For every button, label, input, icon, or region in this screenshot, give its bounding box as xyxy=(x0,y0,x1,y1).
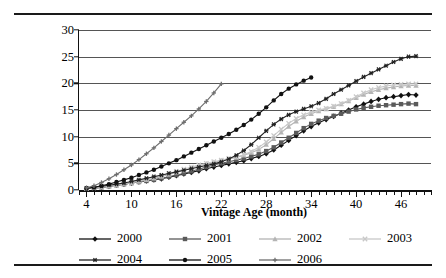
legend-swatch-square-icon xyxy=(168,232,202,246)
data-point-circle xyxy=(301,78,305,82)
figure-container: OTS 60+DQ% (including foreclosure, REO, … xyxy=(0,0,446,278)
x-tick-mark-minor xyxy=(326,190,327,195)
x-tick-mark-minor xyxy=(274,190,275,195)
y-tick-label: 20 xyxy=(44,77,74,90)
data-point-circle xyxy=(197,147,201,151)
data-point-asterisk xyxy=(414,54,418,58)
data-point-square xyxy=(376,104,380,108)
legend-item-2002[interactable]: 2002 xyxy=(258,228,348,249)
legend-item-2004[interactable]: 2004 xyxy=(78,249,168,270)
data-point-asterisk xyxy=(369,71,373,75)
data-point-asterisk xyxy=(309,104,313,108)
data-point-square xyxy=(391,102,395,106)
data-point-square xyxy=(339,112,343,116)
data-point-circle xyxy=(189,150,193,154)
data-point-square xyxy=(414,102,418,106)
x-tick-mark-minor xyxy=(386,190,387,195)
data-point-square xyxy=(384,103,388,107)
x-tick-mark-major xyxy=(401,190,402,197)
data-point-square xyxy=(369,105,373,109)
series-line xyxy=(86,84,221,188)
data-point-square xyxy=(301,126,305,130)
data-point-plus xyxy=(273,257,277,261)
data-point-circle xyxy=(144,170,148,174)
data-point-diamond xyxy=(406,92,411,98)
series-2003 xyxy=(84,82,418,191)
legend-swatch-triangle-icon xyxy=(258,232,292,246)
legend-label: 2002 xyxy=(297,232,322,245)
y-tick-label: 0 xyxy=(44,184,74,197)
legend-label: 2000 xyxy=(117,232,142,245)
data-point-diamond xyxy=(376,96,381,102)
x-tick-mark-minor xyxy=(101,190,102,195)
data-point-circle xyxy=(182,154,186,158)
data-point-square xyxy=(279,140,283,144)
data-point-asterisk xyxy=(346,83,350,87)
x-tick-mark-minor xyxy=(191,190,192,195)
legend-item-2003[interactable]: 2003 xyxy=(348,228,438,249)
data-point-diamond xyxy=(368,99,373,105)
series-line xyxy=(86,95,416,189)
data-point-circle xyxy=(152,168,156,172)
legend-item-2000[interactable]: 2000 xyxy=(78,228,168,249)
data-point-circle xyxy=(242,123,246,127)
legend-label: 2004 xyxy=(117,253,142,266)
data-point-asterisk xyxy=(324,97,328,101)
data-point-diamond xyxy=(398,93,403,99)
series-line xyxy=(86,84,416,189)
legend: 2000200120022003200420052006 xyxy=(78,228,438,270)
x-tick-mark-minor xyxy=(296,190,297,195)
x-tick-mark-major xyxy=(221,190,222,197)
data-point-diamond xyxy=(391,94,396,100)
x-tick-mark-minor xyxy=(79,190,80,195)
data-point-circle xyxy=(122,178,126,182)
data-point-circle xyxy=(212,139,216,143)
x-tick-mark-major xyxy=(311,190,312,197)
data-point-circle xyxy=(264,105,268,109)
data-point-square xyxy=(361,106,365,110)
y-tick-label: 30 xyxy=(44,24,74,37)
x-tick-mark-minor xyxy=(146,190,147,195)
data-point-asterisk xyxy=(391,60,395,64)
data-point-circle xyxy=(279,92,283,96)
legend-swatch-plus-icon xyxy=(258,253,292,267)
x-tick-mark-minor xyxy=(109,190,110,195)
y-tick-label: 25 xyxy=(44,50,74,63)
x-tick-mark-minor xyxy=(199,190,200,195)
x-tick-mark-major xyxy=(356,190,357,197)
legend-label: 2001 xyxy=(207,232,232,245)
data-point-circle xyxy=(294,82,298,86)
data-point-asterisk xyxy=(361,75,365,79)
legend-label: 2006 xyxy=(297,253,322,266)
x-tick-mark-major xyxy=(131,190,132,197)
data-point-circle xyxy=(137,173,141,177)
series-line xyxy=(86,85,416,188)
x-tick-mark-minor xyxy=(364,190,365,195)
x-tick-mark-minor xyxy=(349,190,350,195)
legend-item-2006[interactable]: 2006 xyxy=(258,249,348,270)
x-tick-mark-minor xyxy=(334,190,335,195)
legend-swatch-asterisk-icon xyxy=(78,253,112,267)
data-point-square xyxy=(399,102,403,106)
data-point-diamond xyxy=(413,92,418,98)
data-point-square xyxy=(309,122,313,126)
data-point-asterisk xyxy=(272,122,276,126)
legend-label: 2003 xyxy=(387,232,412,245)
x-tick-mark-minor xyxy=(289,190,290,195)
x-tick-mark-minor xyxy=(169,190,170,195)
x-tick-mark-minor xyxy=(154,190,155,195)
data-point-asterisk xyxy=(287,113,291,117)
legend-item-2005[interactable]: 2005 xyxy=(168,249,258,270)
data-point-circle xyxy=(107,182,111,186)
data-point-square xyxy=(272,145,276,149)
data-point-square xyxy=(257,152,261,156)
x-tick-mark-minor xyxy=(94,190,95,195)
data-point-circle xyxy=(167,161,171,165)
x-tick-mark-minor xyxy=(394,190,395,195)
data-point-asterisk xyxy=(376,67,380,71)
data-point-square xyxy=(264,149,268,153)
data-point-diamond xyxy=(92,236,97,242)
data-point-asterisk xyxy=(242,149,246,153)
legend-item-2001[interactable]: 2001 xyxy=(168,228,258,249)
x-tick-mark-minor xyxy=(379,190,380,195)
